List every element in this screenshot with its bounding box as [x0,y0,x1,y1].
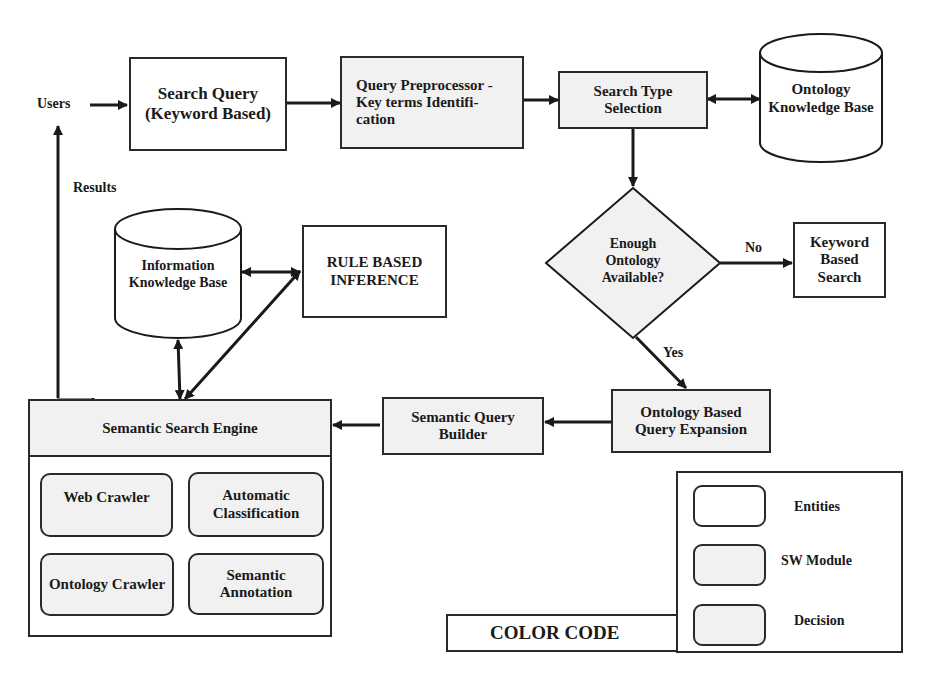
automatic-classification-module: Automatic Classification [188,472,324,537]
rule-inference-node: RULE BASED INFERENCE [302,225,447,318]
query-preprocessor-text: Query Preprocessor -Key terms Identifi- … [356,77,508,129]
search-type-selection-text: Search Type Selection [568,83,698,118]
legend-swatch-entities [693,485,766,527]
legend-title: COLOR CODE [490,622,619,644]
legend-swatch-decision [693,604,766,646]
legend-box: Entities SW Module Decision [676,471,903,653]
information-kb-text: Information Knowledge Base [129,258,227,290]
ontology-crawler-text: Ontology Crawler [49,576,165,593]
keyword-search-text: Keyword Based Search [803,234,876,286]
web-crawler-module: Web Crawler [40,473,173,537]
ontology-kb-node: Ontology Knowledge Base [762,80,880,116]
ontology-expansion-text: Ontology Based Query Expansion [621,404,761,439]
legend-label-decision: Decision [794,613,845,629]
semantic-search-engine: Semantic Search Engine Web Crawler Autom… [28,399,332,637]
legend-label-sw-module: SW Module [781,553,852,569]
search-type-selection-node: Search Type Selection [558,71,708,129]
users-label: Users [37,96,70,112]
automatic-classification-text: Automatic Classification [190,487,322,522]
results-label: Results [73,180,117,196]
legend-label-entities: Entities [794,499,840,515]
semantic-annotation-text: Semantic Annotation [190,567,322,602]
engine-title: Semantic Search Engine [102,420,258,437]
keyword-search-node: Keyword Based Search [793,222,886,298]
rule-inference-text: RULE BASED INFERENCE [314,254,435,289]
semantic-annotation-module: Semantic Annotation [188,553,324,615]
decision-node: Enough Ontology Available? [585,236,681,286]
query-preprocessor-node: Query Preprocessor -Key terms Identifi- … [340,56,524,149]
information-kb-node: Information Knowledge Base [117,258,239,292]
search-query-node: Search Query (Keyword Based) [129,57,287,151]
semantic-query-builder-node: Semantic Query Builder [382,397,544,455]
web-crawler-text: Web Crawler [63,489,149,506]
ontology-expansion-node: Ontology Based Query Expansion [611,389,771,453]
engine-header: Semantic Search Engine [30,401,330,457]
decision-text: Enough Ontology Available? [602,236,665,285]
yes-label: Yes [663,345,683,361]
semantic-query-builder-text: Semantic Query Builder [396,409,530,444]
legend-title-box: COLOR CODE [446,614,678,652]
search-query-text: Search Query (Keyword Based) [143,84,273,123]
no-label: No [745,240,762,256]
ontology-crawler-module: Ontology Crawler [40,553,174,616]
legend-swatch-sw-module [693,544,766,586]
ontology-kb-text: Ontology Knowledge Base [768,81,873,115]
